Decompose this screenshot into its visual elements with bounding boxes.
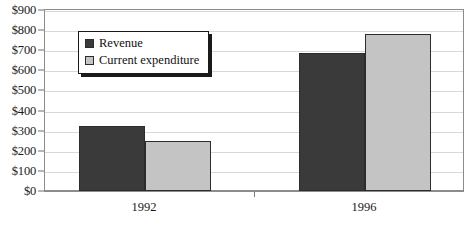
legend-item: Revenue: [85, 35, 199, 52]
y-axis: $0$100$200$300$400$500$600$700$800$900: [0, 0, 44, 192]
y-axis-tick-label: $200: [12, 143, 36, 158]
y-axis-tick-label: $800: [12, 23, 36, 38]
legend-label-revenue: Revenue: [99, 36, 143, 51]
y-axis-tick-label: $600: [12, 63, 36, 78]
bar-revenue-1992: [79, 126, 145, 191]
bar-current-expenditure-1992: [145, 141, 211, 191]
y-axis-tick-label: $900: [12, 3, 36, 18]
y-axis-tick-label: $0: [24, 184, 36, 199]
legend-label-current-expenditure: Current expenditure: [99, 53, 199, 68]
x-axis: 19921996: [44, 192, 464, 229]
gridline: [45, 11, 463, 12]
bar-revenue-1996: [299, 53, 365, 191]
legend-swatch-current-expenditure: [85, 56, 94, 65]
legend-swatch-revenue: [85, 39, 94, 48]
bar-chart: $0$100$200$300$400$500$600$700$800$900 1…: [0, 0, 476, 229]
x-axis-tick: [254, 192, 255, 197]
chart-legend: Revenue Current expenditure: [78, 31, 209, 74]
y-axis-tick-label: $300: [12, 123, 36, 138]
x-axis-tick-label: 1992: [132, 200, 157, 215]
x-axis-tick-label: 1996: [352, 200, 377, 215]
y-axis-tick-label: $400: [12, 103, 36, 118]
y-axis-tick-label: $100: [12, 163, 36, 178]
y-axis-tick-label: $700: [12, 43, 36, 58]
y-axis-tick-label: $500: [12, 83, 36, 98]
legend-item: Current expenditure: [85, 52, 199, 69]
bar-current-expenditure-1996: [365, 34, 431, 191]
